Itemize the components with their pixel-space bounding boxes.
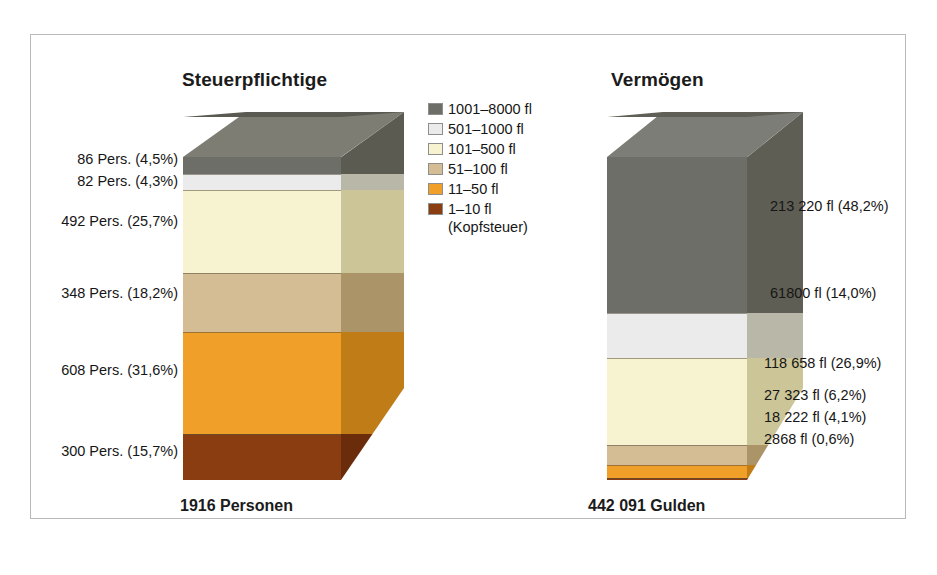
segment-front-101-500 [183, 190, 341, 273]
callout-left-101-500: 492 Pers. (25,7%) [20, 213, 178, 230]
bar-right-front [607, 157, 747, 480]
segment-front-501-1000 [607, 313, 747, 358]
right-column-total: 442 091 Gulden [588, 497, 705, 515]
right-column-title: Vermögen [611, 69, 704, 91]
segment-front-1-10 [607, 478, 747, 480]
legend-swatch-101-500 [428, 143, 443, 155]
callout-right-1001-8000: 213 220 fl (48,2%) [770, 198, 889, 215]
callout-left-1001-8000: 86 Pers. (4,5%) [30, 151, 178, 168]
callout-left-1-10: 300 Pers. (15,7%) [20, 443, 178, 460]
chart-page: Steuerpflichtige Vermögen [0, 0, 937, 575]
callout-left-51-100: 348 Pers. (18,2%) [20, 285, 178, 302]
callout-right-101-500: 118 658 fl (26,9%) [764, 355, 881, 372]
legend-swatch-11-50 [428, 183, 443, 195]
left-column-total: 1916 Personen [180, 497, 293, 515]
callout-right-501-1000: 61800 fl (14,0%) [770, 285, 876, 302]
bar-vermoegen [607, 112, 747, 480]
legend: 1001–8000 fl 501–1000 fl 101–500 fl 51–1… [428, 100, 598, 238]
segment-front-1-10 [183, 434, 341, 480]
legend-item-1001-8000: 1001–8000 fl [428, 100, 598, 118]
callout-right-11-50: 18 222 fl (4,1%) [764, 409, 866, 426]
legend-swatch-51-100 [428, 163, 443, 175]
segment-front-1001-8000 [183, 157, 341, 174]
legend-label-11-50: 11–50 fl [448, 180, 499, 198]
legend-label-51-100: 51–100 fl [448, 160, 508, 178]
bar-left-front [183, 157, 341, 480]
segment-front-11-50 [183, 332, 341, 434]
legend-label-1001-8000: 1001–8000 fl [448, 100, 532, 118]
segment-front-51-100 [607, 445, 747, 465]
left-column-title: Steuerpflichtige [182, 69, 327, 91]
callout-left-501-1000: 82 Pers. (4,3%) [30, 173, 178, 190]
legend-swatch-1001-8000 [428, 103, 443, 115]
legend-swatch-501-1000 [428, 123, 443, 135]
legend-label-501-1000: 501–1000 fl [448, 120, 524, 138]
legend-item-51-100: 51–100 fl [428, 160, 598, 178]
legend-item-1-10: 1–10 fl (Kopfsteuer) [428, 200, 598, 236]
bar-steuerpflichtige [183, 112, 341, 480]
segment-front-11-50 [607, 465, 747, 478]
segment-front-51-100 [183, 273, 341, 332]
segment-side-51-100 [341, 273, 404, 332]
segment-front-501-1000 [183, 174, 341, 190]
legend-label-1-10: 1–10 fl (Kopfsteuer) [448, 200, 528, 236]
legend-item-101-500: 101–500 fl [428, 140, 598, 158]
legend-label-101-500: 101–500 fl [448, 140, 516, 158]
callout-right-1-10: 2868 fl (0,6%) [764, 431, 854, 448]
segment-front-101-500 [607, 358, 747, 445]
callout-left-11-50: 608 Pers. (31,6%) [20, 362, 178, 379]
segment-front-1001-8000 [607, 157, 747, 313]
legend-swatch-1-10 [428, 203, 443, 215]
callout-right-51-100: 27 323 fl (6,2%) [764, 387, 866, 404]
legend-item-11-50: 11–50 fl [428, 180, 598, 198]
segment-side-501-1000 [341, 174, 404, 190]
segment-side-501-1000 [747, 313, 803, 358]
segment-side-101-500 [341, 190, 404, 273]
legend-item-501-1000: 501–1000 fl [428, 120, 598, 138]
